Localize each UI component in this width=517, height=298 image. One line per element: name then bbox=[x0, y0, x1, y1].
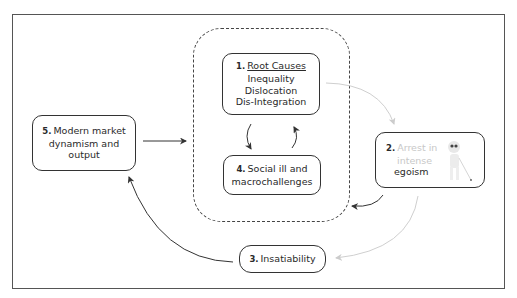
node-2-arrest-in-egoism: 2.Arrest in intense egoism bbox=[375, 132, 485, 188]
node-1-root-causes: 1.Root Causes Inequality Dislocation Dis… bbox=[222, 53, 320, 115]
node-text: dynamism and bbox=[49, 138, 120, 150]
root-cause-dislocation: Dislocation bbox=[245, 85, 298, 97]
node-number: 3. bbox=[249, 254, 258, 264]
node-number: 2. bbox=[386, 143, 395, 153]
node-text: Modern market bbox=[53, 125, 125, 136]
node-text: output bbox=[68, 149, 99, 161]
arrow-2-to-3 bbox=[336, 196, 418, 258]
node-4-social-ill: 4.Social ill and macrochallenges bbox=[223, 155, 321, 195]
arrow-3-to-5 bbox=[129, 177, 233, 262]
node-text-faint: Arrest in bbox=[397, 142, 437, 153]
arrow-1-to-2 bbox=[326, 83, 394, 124]
node-text-faint: intense bbox=[386, 155, 432, 167]
node-3-insatiability: 3.Insatiability bbox=[239, 245, 326, 273]
arrow-2-to-group bbox=[352, 195, 383, 206]
node-text: Insatiability bbox=[261, 253, 316, 264]
node-text: macrochallenges bbox=[232, 176, 313, 188]
node-number: 5. bbox=[42, 126, 51, 136]
blind-figure-with-cane-icon bbox=[440, 138, 476, 184]
node-text: egoism bbox=[386, 166, 429, 178]
node-text: Social ill and bbox=[248, 163, 308, 174]
root-causes-title: Root Causes bbox=[247, 60, 306, 71]
root-cause-dis-integration: Dis-Integration bbox=[236, 96, 307, 108]
node-5-modern-market: 5.Modern market dynamism and output bbox=[32, 115, 136, 171]
root-cause-inequality: Inequality bbox=[247, 73, 294, 85]
node-number: 4. bbox=[236, 164, 245, 174]
arrow-4-to-1 bbox=[292, 127, 297, 148]
arrow-1-to-4 bbox=[247, 124, 251, 149]
node-number: 1. bbox=[236, 61, 245, 71]
